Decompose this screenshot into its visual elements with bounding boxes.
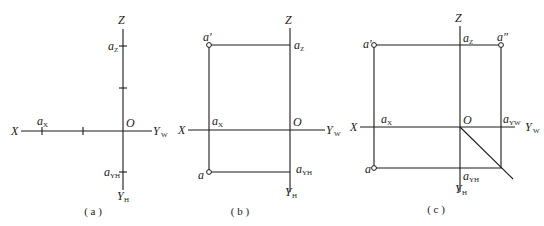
- caption-c: ( c ): [427, 203, 445, 216]
- label-z: Z: [118, 13, 125, 27]
- label-a: a: [365, 162, 371, 176]
- label-ax-sub: X: [218, 121, 223, 129]
- label-a: a: [198, 168, 204, 182]
- label-z: Z: [455, 11, 462, 25]
- label-yh-sub: H: [292, 192, 297, 200]
- caption-b: ( b ): [231, 205, 250, 218]
- label-ayh-sub: YH: [302, 169, 312, 177]
- label-x: X: [177, 123, 186, 137]
- label-yw-sub: W: [161, 131, 168, 139]
- label-yw-sub: W: [334, 130, 341, 138]
- label-yw: Y: [326, 123, 334, 137]
- figure-c: Z X O Y W Y H a′ a″ a a Z a X a YW a YH …: [349, 11, 540, 216]
- label-ax-sub: X: [43, 121, 48, 129]
- label-origin: O: [463, 113, 472, 127]
- projection-diagrams: Z X O Y W Y H a Z a X a YH ( a ) Z X O Y…: [0, 0, 544, 226]
- label-a-dprime: a″: [497, 30, 509, 44]
- caption-a: ( a ): [84, 205, 102, 218]
- label-yw: Y: [525, 120, 533, 134]
- figure-a: Z X O Y W Y H a Z a X a YH ( a ): [10, 13, 168, 218]
- label-a-prime: a′: [203, 30, 212, 44]
- label-x: X: [349, 120, 358, 134]
- label-az-sub: Z: [469, 38, 473, 46]
- label-az-sub: Z: [114, 46, 118, 54]
- label-yh-sub: H: [462, 189, 467, 197]
- label-a-prime: a′: [363, 37, 372, 51]
- label-ax-sub: X: [387, 119, 392, 127]
- label-az-sub: Z: [300, 45, 304, 53]
- label-origin: O: [126, 116, 135, 130]
- label-ayw-sub: YW: [509, 119, 521, 127]
- label-yw: Y: [153, 124, 161, 138]
- label-origin: O: [293, 115, 302, 129]
- label-yh-sub: H: [124, 196, 129, 204]
- label-x: X: [10, 124, 19, 138]
- label-ayh-sub: YH: [469, 176, 479, 184]
- label-ayh-sub: YH: [110, 172, 120, 180]
- point-a: [207, 170, 212, 175]
- label-yw-sub: W: [533, 127, 540, 135]
- point-a: [372, 166, 377, 171]
- point-a-prime: [372, 43, 377, 48]
- label-z: Z: [285, 13, 292, 27]
- figure-b: Z X O Y W Y H a′ a a Z a X a YH ( b ): [177, 13, 341, 218]
